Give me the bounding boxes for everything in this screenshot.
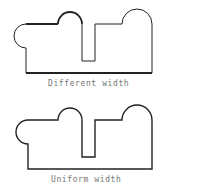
figure-different-width: Different width xyxy=(0,0,205,96)
caption-uniform-width: Uniform width xyxy=(51,175,205,184)
caption-different-width: Different width xyxy=(48,79,205,88)
figure-uniform-width: Uniform width xyxy=(0,96,205,192)
